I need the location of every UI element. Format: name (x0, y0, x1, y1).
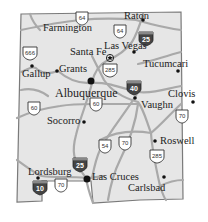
svg-text:64: 64 (117, 28, 124, 34)
svg-text:285: 285 (105, 67, 116, 73)
label-albuquerque: Albuquerque (55, 87, 118, 99)
svg-text:25: 25 (76, 162, 84, 169)
label-tucumcari: Tucumcari (143, 59, 188, 70)
us-shield-70-central: 70 (119, 137, 131, 150)
us-shield-64-east: 64 (114, 25, 126, 38)
label-raton: Raton (124, 11, 149, 22)
interstate-shield-10: 10 (33, 181, 47, 195)
label-santa-fe: Santa Fe (70, 47, 106, 58)
svg-text:54: 54 (102, 143, 109, 149)
label-las-vegas: Las Vegas (104, 41, 147, 52)
us-shield-70-east: 70 (176, 110, 188, 123)
svg-text:70: 70 (122, 140, 129, 146)
label-grants: Grants (59, 64, 87, 75)
us-shield-54: 54 (99, 140, 111, 153)
svg-text:70: 70 (58, 182, 65, 188)
city-dot-tucumcari (176, 69, 180, 73)
svg-text:10: 10 (36, 185, 44, 192)
city-dot-vaughn (133, 96, 137, 100)
city-dot-carlsbad (162, 175, 166, 179)
label-carlsbad: Carlsbad (128, 183, 165, 194)
us-shield-285-north: 285 (103, 64, 117, 77)
svg-text:40: 40 (130, 85, 138, 92)
svg-text:64: 64 (79, 15, 86, 21)
label-las-cruces: Las Cruces (92, 172, 139, 183)
new-mexico-map: 64 64 666 285 60 60 54 70 (0, 0, 208, 222)
us-shield-285-south: 285 (150, 150, 164, 163)
us-shield-666: 666 (23, 47, 37, 60)
city-dot-las-cruces (84, 176, 91, 183)
city-dot-roswell (153, 139, 157, 143)
city-dot-clovis (191, 100, 195, 104)
label-vaughn: Vaughn (141, 100, 173, 111)
svg-text:666: 666 (25, 50, 36, 56)
label-clovis: Clovis (168, 89, 195, 100)
label-socorro: Socorro (47, 116, 80, 127)
label-farmington: Farmington (43, 23, 92, 34)
label-roswell: Roswell (160, 136, 194, 147)
label-lordsburg: Lordsburg (28, 167, 72, 178)
svg-text:70: 70 (179, 113, 186, 119)
interstate-shield-25-south: 25 (73, 158, 87, 172)
svg-text:60: 60 (31, 105, 38, 111)
us-shield-70-west: 70 (55, 179, 67, 192)
svg-text:60: 60 (93, 101, 100, 107)
interstate-shield-40: 40 (127, 81, 141, 95)
city-dot-socorro (82, 120, 86, 124)
city-dot-albuquerque (88, 78, 95, 85)
label-gallup: Gallup (22, 69, 51, 80)
svg-text:285: 285 (152, 153, 163, 159)
us-shield-60-west: 60 (28, 102, 40, 115)
